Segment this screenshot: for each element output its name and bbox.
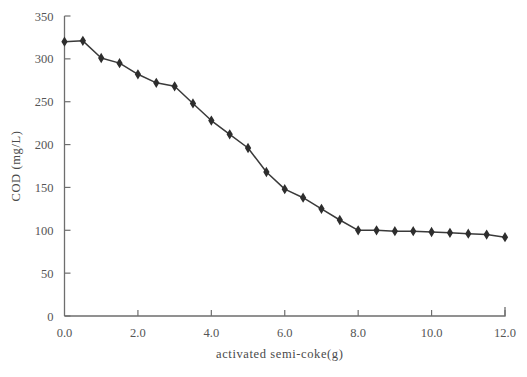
data-point-marker xyxy=(117,60,121,67)
x-tick-label: 4.0 xyxy=(204,326,220,340)
y-tick-label: 0 xyxy=(47,310,53,324)
data-point-marker xyxy=(191,100,195,107)
x-tick-label: 0.0 xyxy=(57,326,73,340)
y-axis-tick-mark-group xyxy=(65,16,71,316)
data-point-marker xyxy=(374,227,378,234)
data-point-marker xyxy=(172,83,176,90)
data-point-marker xyxy=(503,234,507,241)
data-point-marker xyxy=(338,216,342,223)
data-point-marker xyxy=(136,71,140,78)
data-point-marker xyxy=(246,144,250,151)
x-axis-tick-mark-group xyxy=(138,310,505,316)
data-point-marker-group xyxy=(62,37,507,240)
y-tick-label: 200 xyxy=(35,138,54,152)
data-point-marker xyxy=(356,227,360,234)
data-point-marker xyxy=(484,231,488,238)
data-point-marker xyxy=(319,205,323,212)
data-point-marker xyxy=(99,54,103,61)
data-point-marker xyxy=(466,230,470,237)
data-point-marker xyxy=(448,229,452,236)
y-tick-label: 100 xyxy=(35,224,54,238)
y-tick-label: 300 xyxy=(35,52,54,66)
data-point-marker xyxy=(411,228,415,235)
x-tick-label: 10.0 xyxy=(421,326,443,340)
data-point-marker xyxy=(154,79,158,86)
y-tick-label: 50 xyxy=(41,267,54,281)
data-point-marker xyxy=(393,228,397,235)
data-point-marker xyxy=(301,194,305,201)
data-point-marker xyxy=(81,37,85,44)
x-tick-label: 2.0 xyxy=(130,326,146,340)
data-point-marker xyxy=(62,38,66,45)
data-point-marker xyxy=(429,228,433,235)
x-tick-label: 12.0 xyxy=(494,326,516,340)
y-tick-label: 150 xyxy=(35,181,54,195)
y-tick-label: 250 xyxy=(35,95,54,109)
x-axis-title: activated semi-coke(g) xyxy=(216,347,343,361)
data-point-marker xyxy=(209,117,213,124)
y-tick-label: 350 xyxy=(35,10,54,24)
y-axis-tick-label-group: 050100150200250300350 xyxy=(35,10,54,324)
x-tick-label: 8.0 xyxy=(350,326,366,340)
data-point-marker xyxy=(227,131,231,138)
x-axis-tick-label-group: 0.02.04.06.08.010.012.0 xyxy=(57,326,516,340)
data-series-line xyxy=(65,41,506,237)
x-tick-label: 6.0 xyxy=(277,326,293,340)
data-point-marker xyxy=(283,186,287,193)
cod-vs-semicoke-line-chart: 050100150200250300350 0.02.04.06.08.010.… xyxy=(0,0,527,377)
y-axis-title: COD (mg/L) xyxy=(9,131,23,202)
chart-screenshot: 050100150200250300350 0.02.04.06.08.010.… xyxy=(0,0,527,377)
data-point-marker xyxy=(264,168,268,175)
